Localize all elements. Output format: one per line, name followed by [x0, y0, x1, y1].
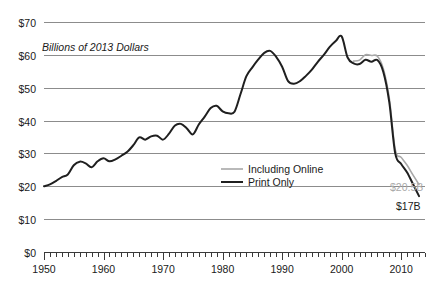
x-axis-tick-label: 2000: [330, 263, 354, 275]
y-axis-tick-label: $60: [18, 50, 36, 62]
y-axis-tick-label: $50: [18, 83, 36, 95]
annotation-print-end-value: $17B: [396, 200, 421, 212]
chart-container: $0$10$20$30$40$50$60$70 1950196019701980…: [0, 0, 447, 295]
x-axis-tick-labels: 1950196019701980199020002010: [32, 263, 413, 275]
x-axis-tick-label: 1960: [92, 263, 116, 275]
x-axis-tick-label: 1990: [270, 263, 294, 275]
x-axis-tick-label: 2010: [390, 263, 414, 275]
y-axis-tick-label: $40: [18, 116, 36, 128]
y-axis-tick-label: $10: [18, 214, 36, 226]
x-axis: [44, 253, 426, 260]
x-axis-tick-label: 1950: [32, 263, 56, 275]
y-axis-tick-labels: $0$10$20$30$40$50$60$70: [18, 17, 36, 259]
y-axis-tick-label: $0: [24, 247, 36, 259]
y-axis-tick-label: $20: [18, 181, 36, 193]
legend-label-print-only: Print Only: [248, 176, 295, 188]
y-axis-tick-label: $30: [18, 148, 36, 160]
series-line-including-online: [354, 55, 419, 185]
revenue-line-chart: $0$10$20$30$40$50$60$70 1950196019701980…: [0, 0, 447, 295]
series-line-print-only: [44, 36, 419, 196]
x-axis-tick-label: 1980: [211, 263, 235, 275]
legend-label-including-online: Including Online: [248, 163, 323, 175]
annotation-online-end-value: $20.5B: [390, 181, 423, 193]
legend: Including Online Print Only: [221, 163, 323, 188]
y-axis-tick-label: $70: [18, 17, 36, 29]
axis-units-note: Billions of 2013 Dollars: [42, 41, 150, 53]
x-axis-tick-label: 1970: [151, 263, 175, 275]
